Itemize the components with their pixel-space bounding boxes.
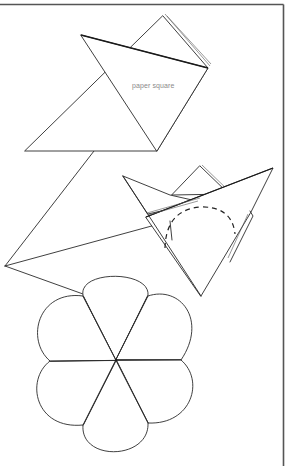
folded-square: paper square <box>25 14 211 151</box>
paper-folding-diagram: paper square <box>0 0 286 466</box>
paper-square-label: paper square <box>132 82 174 90</box>
connector-lines <box>5 151 170 294</box>
flower-center-point <box>115 359 117 361</box>
six-petal-flower <box>37 276 193 452</box>
folded-cone <box>123 165 273 296</box>
